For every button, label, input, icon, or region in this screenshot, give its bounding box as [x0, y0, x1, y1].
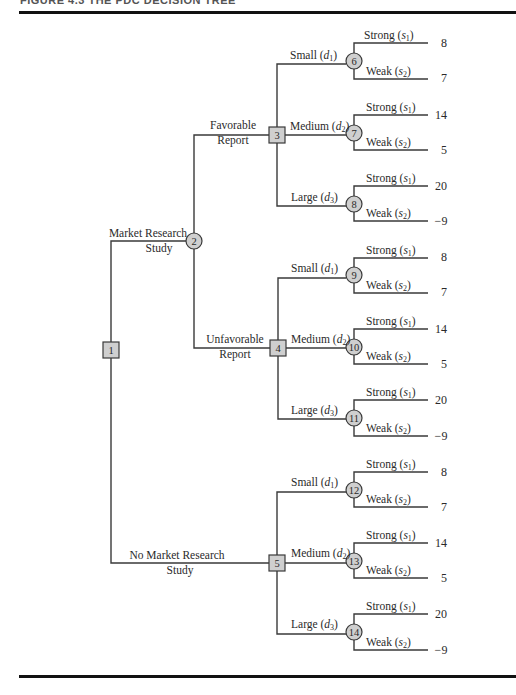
- svg-text:Weak (s2): Weak (s2): [366, 493, 411, 507]
- chance-node-9: 9: [346, 267, 362, 283]
- decision-node-4: 4: [270, 340, 286, 356]
- svg-text:8: 8: [351, 199, 356, 210]
- svg-text:8: 8: [441, 250, 447, 264]
- chance-node-8: 8: [346, 196, 362, 212]
- svg-text:Weak (s2): Weak (s2): [366, 422, 411, 436]
- svg-text:13: 13: [349, 556, 360, 567]
- svg-text:Strong (s1): Strong (s1): [366, 600, 416, 614]
- svg-text:12: 12: [349, 485, 360, 496]
- svg-text:20: 20: [435, 607, 447, 621]
- svg-text:14: 14: [349, 627, 360, 638]
- svg-text:2: 2: [191, 236, 196, 247]
- chance-node-12: 12: [346, 482, 362, 498]
- svg-text:Weak (s2): Weak (s2): [366, 564, 411, 578]
- svg-text:Strong (s1): Strong (s1): [366, 386, 416, 400]
- decision-label-large: Large (d3): [291, 404, 338, 418]
- svg-text:5: 5: [441, 143, 447, 157]
- svg-text:Strong (s1): Strong (s1): [366, 172, 416, 186]
- svg-text:Unfavorable: Unfavorable: [206, 333, 263, 345]
- chance-node-6: 6: [346, 53, 362, 69]
- svg-text:Weak (s2): Weak (s2): [366, 350, 411, 364]
- svg-text:Strong (s1): Strong (s1): [366, 315, 416, 329]
- chance-node-2: 2: [186, 233, 202, 249]
- svg-text:Report: Report: [217, 134, 249, 147]
- svg-text:Weak (s2): Weak (s2): [366, 207, 411, 221]
- svg-text:Weak (s2): Weak (s2): [366, 279, 411, 293]
- svg-text:Market Research: Market Research: [109, 227, 187, 239]
- svg-text:Strong (s1): Strong (s1): [366, 458, 416, 472]
- svg-text:5: 5: [441, 571, 447, 585]
- svg-text:Strong (s1): Strong (s1): [366, 101, 416, 115]
- svg-text:10: 10: [349, 342, 360, 353]
- decision-node-3: 3: [269, 127, 285, 143]
- svg-text:Study: Study: [167, 564, 194, 577]
- decision-label-large: Large (d3): [291, 191, 338, 205]
- svg-text:14: 14: [435, 536, 447, 550]
- decision-label-medium: Medium (d2): [291, 333, 350, 347]
- svg-text:4: 4: [275, 343, 281, 354]
- svg-text:−9: −9: [435, 429, 448, 443]
- svg-text:Weak (s2): Weak (s2): [366, 636, 411, 650]
- svg-text:7: 7: [351, 128, 356, 139]
- svg-text:6: 6: [351, 56, 356, 67]
- svg-text:No Market Research: No Market Research: [129, 549, 224, 561]
- svg-text:Study: Study: [146, 242, 173, 255]
- svg-text:20: 20: [435, 393, 447, 407]
- svg-text:1: 1: [108, 345, 113, 356]
- svg-text:7: 7: [441, 285, 447, 299]
- svg-text:−9: −9: [435, 214, 448, 228]
- svg-text:5: 5: [441, 357, 447, 371]
- bottom-rule: [19, 675, 516, 678]
- svg-text:5: 5: [274, 558, 279, 569]
- svg-text:14: 14: [435, 108, 447, 122]
- decision-node-1: 1: [103, 342, 119, 358]
- svg-text:9: 9: [351, 270, 356, 281]
- svg-text:−9: −9: [435, 643, 448, 657]
- svg-text:Strong (s1): Strong (s1): [366, 244, 416, 258]
- svg-text:20: 20: [435, 179, 447, 193]
- svg-text:Weak (s2): Weak (s2): [366, 136, 411, 150]
- decision-label-small: Small (d1): [291, 262, 338, 276]
- svg-text:3: 3: [274, 130, 279, 141]
- svg-text:Favorable: Favorable: [210, 119, 256, 131]
- chance-node-11: 11: [346, 410, 362, 426]
- svg-text:7: 7: [441, 500, 447, 514]
- decision-label-small: Small (d1): [291, 476, 338, 490]
- svg-text:Strong (s1): Strong (s1): [364, 29, 414, 43]
- decision-node-5: 5: [269, 555, 285, 571]
- decision-tree-diagram: 1 2 3 4 5 6 7 8 9 10 11 1: [0, 0, 516, 695]
- svg-text:Strong (s1): Strong (s1): [366, 529, 416, 543]
- decision-label-large: Large (d3): [291, 618, 338, 632]
- outcome-labels: Strong (s1) Weak (s2) Strong (s1) Weak (…: [364, 29, 416, 650]
- payoff-values: 8 7 14 5 20 −9 8 7 14 5 20 −9 8 7 14 5 2…: [435, 36, 448, 657]
- svg-text:8: 8: [441, 465, 447, 479]
- chance-node-14: 14: [346, 624, 362, 640]
- decision-label-small: Small (d1): [290, 49, 337, 63]
- branch-label-unfavorable-report: Unfavorable Report: [206, 333, 263, 361]
- decision-label-medium: Medium (d2): [291, 547, 350, 561]
- svg-text:11: 11: [349, 413, 359, 424]
- svg-text:7: 7: [441, 71, 447, 85]
- svg-text:14: 14: [435, 322, 447, 336]
- svg-text:Report: Report: [219, 348, 251, 361]
- svg-text:Weak (s2): Weak (s2): [366, 65, 411, 79]
- branch-label-favorable-report: Favorable Report: [210, 119, 256, 147]
- svg-text:8: 8: [441, 36, 447, 50]
- top-rule: [19, 11, 516, 14]
- decision-label-medium: Medium (d2): [290, 120, 349, 134]
